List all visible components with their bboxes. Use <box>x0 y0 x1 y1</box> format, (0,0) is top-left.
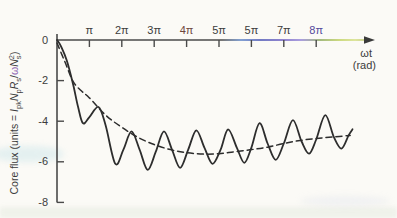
plot-canvas <box>0 0 397 218</box>
axis-ticks <box>57 40 316 202</box>
dashed-curve <box>57 43 350 154</box>
solid-curve <box>57 40 353 170</box>
x-axis-arrowhead <box>364 36 375 44</box>
core-flux-vs-wt-chart: ωt (rad) Core flux (units = IpkNpRs/ωNs2… <box>0 0 397 218</box>
curves <box>57 40 353 170</box>
